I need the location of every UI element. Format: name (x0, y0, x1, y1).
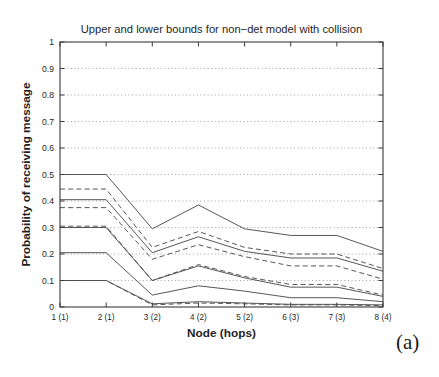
y-tick-label: 0.6 (42, 143, 54, 153)
x-tick-label: 2 (1) (98, 313, 115, 322)
x-tick-label: 5 (2) (236, 313, 253, 322)
x-tick-label: 6 (3) (282, 313, 299, 322)
y-tick-label: 0.1 (42, 276, 54, 286)
y-tick-label: 0 (49, 302, 54, 312)
y-tick-label: 0.3 (42, 223, 54, 233)
x-tick-label: 1 (1) (52, 313, 69, 322)
x-tick-label: 4 (2) (190, 313, 207, 322)
y-tick-label: 0.5 (42, 170, 54, 180)
y-tick-label: 0.9 (42, 64, 54, 74)
figure-caption: (a) (396, 330, 419, 355)
y-tick-label: 0.8 (42, 90, 54, 100)
x-axis-label: Node (hops) (187, 326, 256, 340)
chart-title: Upper and lower bounds for non−det model… (81, 23, 362, 35)
x-tick-label: 3 (2) (144, 313, 161, 322)
chart-canvas: 00.10.20.30.40.50.60.70.80.911 (1)2 (1)3… (0, 0, 439, 377)
y-axis-label: Probability of receiving message (19, 82, 33, 267)
y-tick-label: 1 (49, 37, 54, 47)
y-tick-label: 0.7 (42, 117, 54, 127)
y-tick-label: 0.4 (42, 196, 54, 206)
x-tick-label: 7 (3) (328, 313, 345, 322)
figure-panel: 00.10.20.30.40.50.60.70.80.911 (1)2 (1)3… (0, 0, 439, 377)
y-tick-label: 0.2 (42, 249, 54, 259)
x-tick-label: 8 (4) (375, 313, 392, 322)
